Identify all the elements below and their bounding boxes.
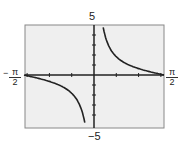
y-min-label: −5 [88,131,101,142]
minus-sign: − [3,69,8,78]
y-max-label: 5 [89,11,95,22]
x-min-label: − π 2 [9,68,21,87]
x-max-denominator: 2 [169,77,174,87]
x-min-denominator: 2 [12,77,17,87]
x-max-label: π 2 [166,68,178,87]
chart-canvas [0,0,181,148]
